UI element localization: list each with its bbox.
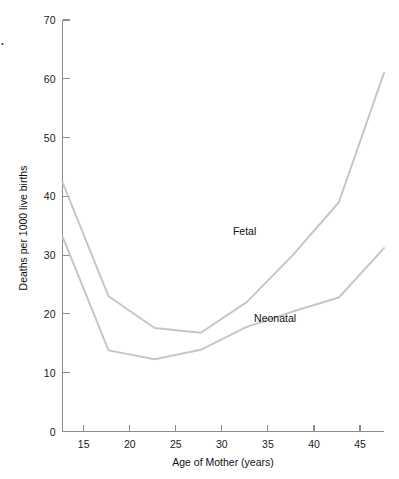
x-tick-label: 40: [308, 438, 320, 450]
x-tick-label: 35: [262, 438, 274, 450]
line-chart: 010203040506070 15202530354045 Fetal Neo…: [0, 0, 399, 479]
y-tick-label: 70: [44, 14, 56, 26]
chart-container: 010203040506070 15202530354045 Fetal Neo…: [0, 0, 399, 479]
y-tick-label: 50: [44, 132, 56, 144]
x-tick-label: 25: [170, 438, 182, 450]
y-tick-label: 0: [50, 426, 56, 438]
series-label-fetal: Fetal: [233, 225, 256, 237]
y-tick-label: 60: [44, 73, 56, 85]
series-label-neonatal: Neonatal: [254, 312, 296, 324]
y-tick-label: 30: [44, 249, 56, 261]
x-tick-label: 20: [124, 438, 136, 450]
y-tick-label: 40: [44, 190, 56, 202]
y-axis-title: Deaths per 1000 live births: [17, 166, 29, 291]
x-axis-title: Age of Mother (years): [172, 456, 274, 468]
chart-background: [0, 0, 399, 479]
x-tick-label: 45: [354, 438, 366, 450]
y-tick-label: 20: [44, 308, 56, 320]
scan-artifact-speck: [1, 43, 3, 45]
x-tick-label: 30: [216, 438, 228, 450]
x-tick-label: 15: [78, 438, 90, 450]
y-tick-label: 10: [44, 367, 56, 379]
